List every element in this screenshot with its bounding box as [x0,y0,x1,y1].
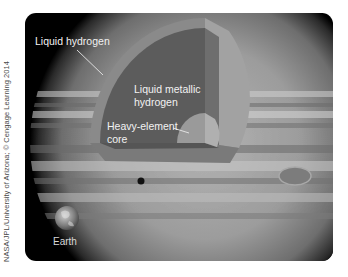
jupiter-illustration [25,13,333,261]
moon-shadow [138,178,145,185]
label-heavy-element-core: Heavy-element core [107,120,178,145]
jupiter-figure-frame: Liquid hydrogen Liquid metallic hydrogen… [25,13,333,261]
image-credit: NASA/JPL/University of Arizona; © Cengag… [2,61,11,262]
label-earth: Earth [53,236,77,249]
great-red-spot [279,167,311,185]
label-liquid-hydrogen: Liquid hydrogen [35,35,110,48]
label-liquid-metallic-hydrogen: Liquid metallic hydrogen [134,83,201,108]
